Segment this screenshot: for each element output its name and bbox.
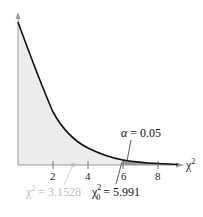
x-tick-label-8: 8 [155, 170, 161, 182]
alpha-leader [127, 140, 131, 161]
x-tick-label-6: 6 [121, 170, 127, 182]
x-tick-label-2: 2 [50, 170, 56, 182]
x-tick-label-4: 4 [85, 170, 91, 182]
x-axis-label: χ2 [185, 157, 195, 172]
test-statistic-label: χ2 = 3.1528 [25, 184, 81, 199]
test-statistic-point [71, 163, 75, 167]
test-statistic-leader [64, 167, 72, 185]
y-axis-arrow-icon [16, 12, 21, 19]
alpha-label: α = 0.05 [121, 126, 161, 140]
non-rejection-area [18, 22, 123, 165]
chi-square-chart: 2 4 6 8 χ2 χ2 = 3.1528 χ20 = 5.991 α = 0… [0, 0, 203, 217]
critical-value-label: χ20 = 5.991 [91, 183, 140, 202]
